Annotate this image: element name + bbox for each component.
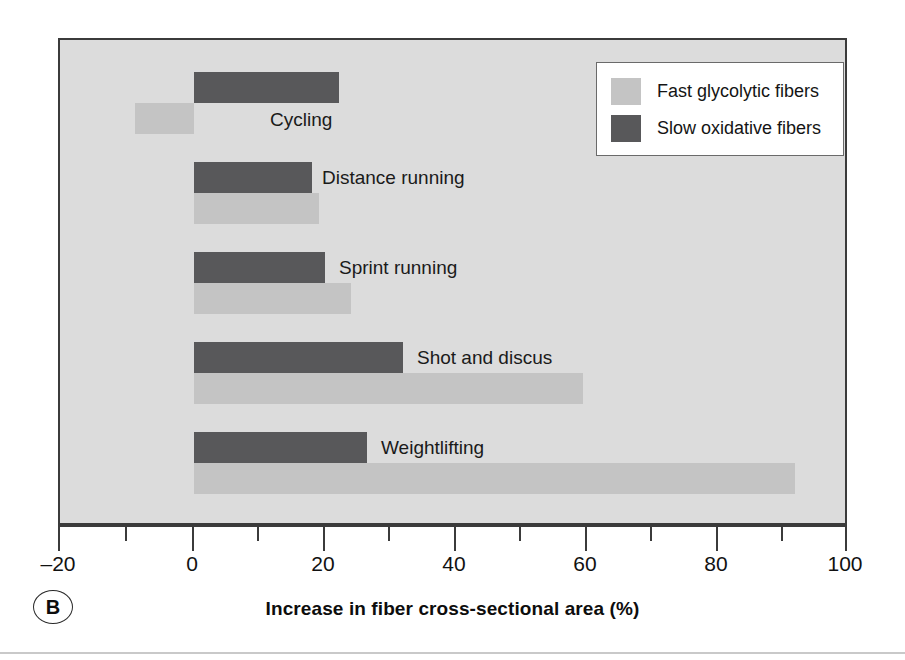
x-axis-tick-major-80 bbox=[716, 527, 718, 551]
legend-item-slow-oxidative: Slow oxidative fibers bbox=[611, 110, 843, 147]
bar-cycling-slow-oxidative bbox=[194, 72, 339, 103]
legend-swatch-slow-oxidative-icon bbox=[611, 115, 641, 142]
bar-distance-running-slow-oxidative bbox=[194, 162, 312, 193]
x-axis-tick-major-0 bbox=[192, 527, 194, 551]
x-axis-label-0: 0 bbox=[186, 552, 198, 576]
x-axis-line bbox=[58, 525, 847, 527]
bar-group-label-shot-and-discus: Shot and discus bbox=[417, 348, 552, 367]
x-axis-label--20: –20 bbox=[40, 552, 75, 576]
bar-sprint-running-slow-oxidative bbox=[194, 252, 325, 283]
x-axis-tick-minor-70 bbox=[650, 527, 652, 541]
bar-group-label-cycling: Cycling bbox=[270, 110, 332, 129]
figure-panel-b: Cycling Distance running Sprint running … bbox=[0, 0, 905, 660]
x-axis-label-20: 20 bbox=[311, 552, 334, 576]
x-axis-label-80: 80 bbox=[704, 552, 727, 576]
bar-group-label-sprint-running: Sprint running bbox=[339, 258, 457, 277]
legend-label-slow-oxidative: Slow oxidative fibers bbox=[657, 118, 821, 139]
bar-distance-running-fast-glycolytic bbox=[194, 193, 319, 224]
legend-swatch-fast-glycolytic-icon bbox=[611, 78, 641, 105]
bar-weightlifting-slow-oxidative bbox=[194, 432, 367, 463]
legend-item-fast-glycolytic: Fast glycolytic fibers bbox=[611, 73, 843, 110]
bar-cycling-fast-glycolytic bbox=[135, 103, 194, 134]
bar-sprint-running-fast-glycolytic bbox=[194, 283, 351, 314]
x-axis-tick-major-60 bbox=[585, 527, 587, 551]
x-axis-tick-major-40 bbox=[454, 527, 456, 551]
x-axis-tick-minor-10 bbox=[257, 527, 259, 541]
bar-group-label-weightlifting: Weightlifting bbox=[381, 438, 484, 457]
x-axis-title: Increase in fiber cross-sectional area (… bbox=[0, 598, 905, 620]
x-axis-tick-minor-90 bbox=[781, 527, 783, 541]
x-axis-tick-minor--10 bbox=[125, 527, 127, 541]
bottom-divider bbox=[0, 652, 905, 654]
x-axis-tick-major-100 bbox=[845, 527, 847, 551]
x-axis-tick-major--20 bbox=[58, 527, 60, 551]
x-axis-label-60: 60 bbox=[573, 552, 596, 576]
bar-group-label-distance-running: Distance running bbox=[322, 168, 465, 187]
bar-shot-and-discus-slow-oxidative bbox=[194, 342, 403, 373]
bar-weightlifting-fast-glycolytic bbox=[194, 463, 795, 494]
bar-shot-and-discus-fast-glycolytic bbox=[194, 373, 583, 404]
x-axis-label-100: 100 bbox=[827, 552, 862, 576]
chart-legend: Fast glycolytic fibers Slow oxidative fi… bbox=[596, 62, 844, 156]
x-axis-tick-minor-50 bbox=[519, 527, 521, 541]
x-axis-tick-minor-30 bbox=[388, 527, 390, 541]
legend-label-fast-glycolytic: Fast glycolytic fibers bbox=[657, 81, 819, 102]
panel-label-b: B bbox=[33, 590, 73, 624]
x-axis-label-40: 40 bbox=[442, 552, 465, 576]
x-axis-tick-major-20 bbox=[323, 527, 325, 551]
